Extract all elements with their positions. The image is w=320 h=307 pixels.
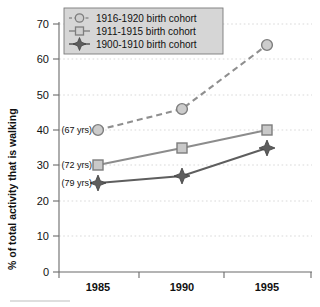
legend-label-1900-1910: 1900-1910 birth cohort <box>96 39 197 50</box>
legend-marker-square-icon <box>76 27 84 35</box>
marker-square-1995 <box>262 125 272 135</box>
annotation-72-yrs: (72 yrs) <box>61 160 92 170</box>
annotation-79-yrs: (79 yrs) <box>61 178 92 188</box>
chart-container: 70 60 50 40 30 20 10 0 % of total activi… <box>0 0 320 307</box>
x-tick-label-1990: 1990 <box>170 281 194 293</box>
series-1911-1915-markers <box>93 125 272 170</box>
y-axis: 70 60 50 40 30 20 10 0 % of total activi… <box>6 18 59 278</box>
series-1916-1920-line <box>98 45 267 130</box>
marker-square-1985 <box>93 160 103 170</box>
y-tick-label-10: 10 <box>37 230 49 242</box>
y-tick-label-40: 40 <box>37 124 49 136</box>
y-tick-label-60: 60 <box>37 53 49 65</box>
legend-marker-circle-icon <box>75 14 83 22</box>
legend-label-1911-1915: 1911-1915 birth cohort <box>96 26 196 37</box>
legend-label-1916-1920: 1916-1920 birth cohort <box>96 13 197 24</box>
marker-square-1990 <box>177 143 187 153</box>
y-tick-label-20: 20 <box>37 195 49 207</box>
marker-circle-1985 <box>93 125 104 136</box>
series-1911-1915 <box>93 125 272 170</box>
x-tick-label-1995: 1995 <box>255 281 279 293</box>
marker-star-1990 <box>174 168 190 184</box>
y-axis-title: % of total activity that is walking <box>6 108 18 270</box>
y-tick-label-70: 70 <box>37 18 49 30</box>
y-tick-label-0: 0 <box>43 266 49 278</box>
marker-circle-1995 <box>262 40 273 51</box>
point-annotations: (67 yrs) (72 yrs) (79 yrs) <box>61 125 92 188</box>
x-axis: 1985 1990 1995 <box>59 272 312 293</box>
marker-star-1995 <box>259 140 275 156</box>
marker-star-1985 <box>90 175 106 191</box>
x-tick-label-1985: 1985 <box>86 281 110 293</box>
marker-circle-1990 <box>177 104 188 115</box>
line-chart: 70 60 50 40 30 20 10 0 % of total activi… <box>0 0 320 307</box>
y-tick-label-30: 30 <box>37 159 49 171</box>
annotation-67-yrs: (67 yrs) <box>61 125 92 135</box>
y-tick-label-50: 50 <box>37 89 49 101</box>
legend: 1916-1920 birth cohort 1911-1915 birth c… <box>64 8 223 54</box>
